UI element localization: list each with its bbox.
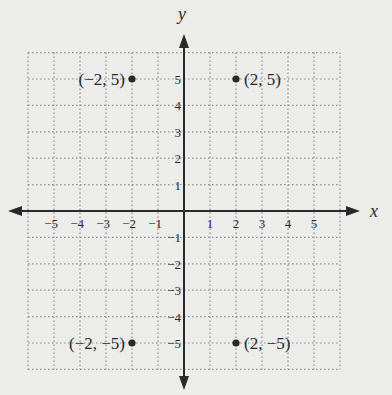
y-tick-label: −4 <box>167 310 181 325</box>
y-tick-label: 3 <box>175 125 182 140</box>
x-axis-left-arrow-icon <box>8 206 22 216</box>
y-axis-label: y <box>176 4 186 24</box>
y-axis-down-arrow-icon <box>179 376 189 390</box>
point-label: (−2, 5) <box>79 70 125 89</box>
axes: x y <box>8 4 378 390</box>
point-label: (2, 5) <box>244 70 281 89</box>
y-tick-label: 5 <box>175 72 182 87</box>
point-label: (−2, −5) <box>69 334 125 353</box>
x-tick-label: 3 <box>259 216 266 231</box>
x-tick-label: 4 <box>285 216 292 231</box>
y-tick-label: −1 <box>167 230 181 245</box>
coordinate-plane: x y −5−4−3−2−112345−5−4−3−2−112345 (−2, … <box>0 0 392 395</box>
y-axis-up-arrow-icon <box>179 34 189 48</box>
x-axis-label: x <box>369 201 378 221</box>
x-tick-label: 2 <box>233 216 240 231</box>
data-point: (−2, −5) <box>69 334 136 353</box>
x-tick-label: −4 <box>70 216 84 231</box>
point-marker-icon <box>128 339 135 346</box>
point-marker-icon <box>128 75 135 82</box>
data-point: (2, 5) <box>232 70 280 89</box>
point-marker-icon <box>232 75 239 82</box>
y-tick-label: −2 <box>167 257 181 272</box>
y-tick-label: 2 <box>175 151 182 166</box>
x-tick-label: −3 <box>96 216 110 231</box>
y-tick-label: 1 <box>175 178 182 193</box>
data-point: (−2, 5) <box>79 70 136 89</box>
x-tick-label: 5 <box>311 216 318 231</box>
x-tick-label: 1 <box>207 216 214 231</box>
y-tick-label: −3 <box>167 283 181 298</box>
x-tick-label: −1 <box>148 216 162 231</box>
x-tick-label: −5 <box>44 216 58 231</box>
y-tick-label: −5 <box>167 336 181 351</box>
y-tick-label: 4 <box>175 98 182 113</box>
point-label: (2, −5) <box>244 334 290 353</box>
x-axis-right-arrow-icon <box>346 206 360 216</box>
x-tick-label: −2 <box>122 216 136 231</box>
point-marker-icon <box>232 339 239 346</box>
